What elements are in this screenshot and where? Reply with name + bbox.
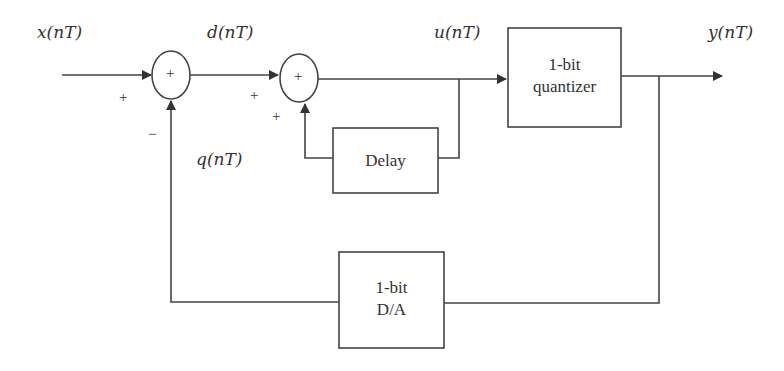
summer-1-minus-sign: − — [148, 126, 156, 143]
summer-2-plus-sign-bottom: + — [272, 108, 280, 125]
output-feedback-branch — [444, 76, 659, 303]
label-difference-signal: d(nT) — [207, 22, 253, 42]
summer-1-symbol: + — [166, 65, 174, 82]
summer-1-plus-sign: + — [119, 89, 127, 106]
delay-feedback-branch — [438, 79, 459, 158]
quantizer-label-line2: quantizer — [508, 76, 621, 98]
dac-label-line2: D/A — [339, 299, 444, 321]
quantizer-label-line1: 1-bit — [508, 54, 621, 76]
dac-output-line — [171, 101, 339, 302]
dac-label-line1: 1-bit — [339, 277, 444, 299]
delay-output-line — [305, 104, 333, 158]
label-integrator-signal: u(nT) — [434, 22, 481, 42]
label-input-signal: x(nT) — [37, 22, 82, 42]
quantizer-label: 1-bit quantizer — [508, 54, 621, 98]
summer-2-plus-sign-top: + — [250, 87, 258, 104]
summer-2-symbol: + — [294, 68, 302, 85]
label-feedback-signal: q(nT) — [196, 149, 242, 169]
delay-label: Delay — [333, 150, 438, 172]
label-output-signal: y(nT) — [708, 22, 753, 42]
dac-label: 1-bit D/A — [339, 277, 444, 321]
